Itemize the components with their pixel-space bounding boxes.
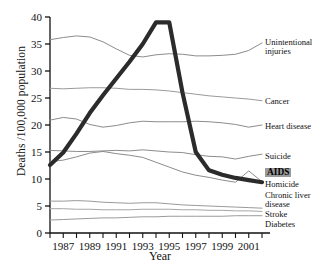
legend-suicide: Suicide — [265, 152, 291, 161]
series-line-suicide — [50, 150, 262, 159]
x-tick-label: 1999 — [211, 240, 234, 252]
y-tick-label: 10 — [31, 173, 43, 185]
legend-homicide: Homicide — [265, 180, 299, 189]
legend-aids: AIDS — [265, 168, 291, 177]
series-layer — [50, 22, 262, 220]
y-tick-label: 15 — [31, 146, 43, 158]
chart-root: Deaths /100,000 population Year 05101520… — [0, 0, 330, 270]
x-tick-label: 1997 — [185, 240, 208, 252]
x-tick-label: 1995 — [158, 240, 181, 252]
series-line-cancer — [50, 88, 262, 101]
y-tick-label: 40 — [31, 11, 43, 23]
y-axis: 0510152025303540 — [31, 11, 50, 239]
legend-diabetes: Diabetes — [265, 220, 295, 229]
x-tick-label: 1991 — [105, 240, 127, 252]
legend-unintentional-injuries: Unintentional injuries — [265, 38, 312, 56]
x-tick-label: 2001 — [238, 240, 260, 252]
series-line-unintentional-injuries — [50, 36, 262, 57]
legend-chronic-liver-disease: Chronic liver disease — [265, 191, 311, 209]
x-tick-label: 1989 — [79, 240, 102, 252]
y-tick-label: 35 — [31, 38, 43, 50]
legend-heart-disease: Heart disease — [265, 122, 311, 131]
x-axis: 19871989199119931995199719992001 — [50, 233, 270, 252]
y-tick-label: 5 — [37, 200, 43, 212]
y-tick-label: 25 — [31, 92, 43, 104]
x-tick-label: 1993 — [132, 240, 155, 252]
series-line-stroke — [50, 209, 262, 212]
series-line-diabetes — [50, 216, 262, 220]
series-line-chronic-liver-disease — [50, 201, 262, 209]
legend-label-line2: injuries — [265, 47, 312, 56]
legend-cancer: Cancer — [265, 97, 289, 106]
legend-stroke: Stroke — [265, 210, 287, 219]
y-tick-label: 0 — [37, 227, 43, 239]
y-tick-label: 30 — [31, 65, 43, 77]
x-tick-label: 1987 — [52, 240, 75, 252]
y-tick-label: 20 — [31, 119, 43, 131]
